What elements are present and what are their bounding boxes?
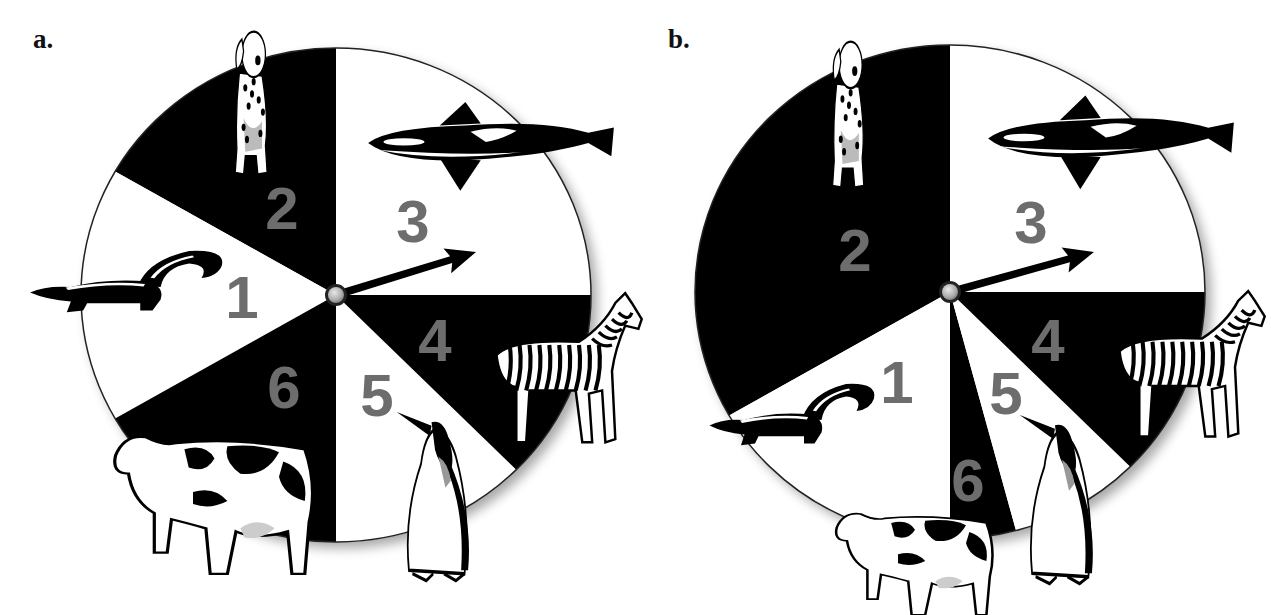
hub-icon <box>942 284 958 300</box>
sector-number-6: 6 <box>951 447 984 514</box>
sector-number-3: 3 <box>396 188 429 255</box>
cow-icon <box>836 514 992 615</box>
sector-number-4: 4 <box>418 307 452 374</box>
sector-number-5: 5 <box>989 360 1022 427</box>
spinner-wheel-a: 321654 <box>30 32 642 581</box>
spinner-wheel-b: 321654 <box>695 42 1265 615</box>
sector-number-2: 2 <box>265 175 298 242</box>
sector-number-1: 1 <box>225 264 258 331</box>
spinner-diagram: 321654 321654 <box>0 0 1271 615</box>
sector-number-6: 6 <box>267 354 300 421</box>
sector-number-4: 4 <box>1031 307 1065 374</box>
sector-number-3: 3 <box>1014 189 1047 256</box>
hub-icon <box>328 287 344 303</box>
sector-number-5: 5 <box>360 362 393 429</box>
sector-number-2: 2 <box>838 217 871 284</box>
cow-icon <box>115 437 313 574</box>
sector-number-1: 1 <box>880 349 913 416</box>
